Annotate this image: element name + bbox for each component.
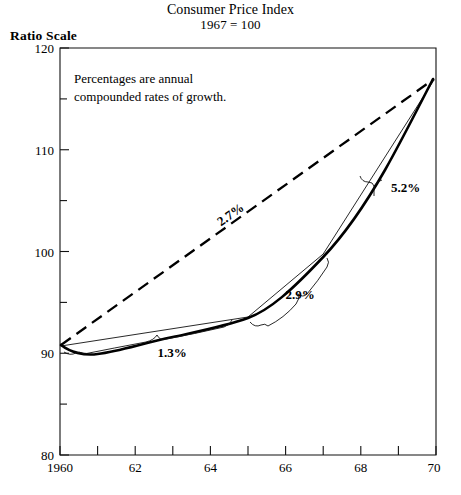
y-tick-label-90: 90 — [41, 346, 54, 361]
x-tick-label-1960: 1960 — [47, 460, 73, 475]
plot-frame — [60, 48, 436, 455]
plot-area: 120 110 100 90 80 1960 62 64 66 68 — [0, 0, 461, 495]
trend-line-overall-dashed — [61, 79, 434, 345]
y-tick-label-100: 100 — [35, 245, 55, 260]
annotation-label-2-9: 2.9% — [285, 287, 314, 302]
y-axis-major-ticks — [60, 48, 69, 455]
x-tick-label-68: 68 — [354, 460, 367, 475]
x-axis-ticks — [60, 446, 436, 455]
x-tick-label-64: 64 — [204, 460, 218, 475]
x-axis-labels: 1960 62 64 66 68 70 — [47, 460, 441, 475]
x-tick-label-62: 62 — [129, 460, 142, 475]
annotation-label-2-7: 2.7% — [214, 200, 247, 229]
y-tick-label-110: 110 — [35, 143, 54, 158]
x-tick-label-66: 66 — [279, 460, 293, 475]
x-tick-label-70: 70 — [428, 460, 441, 475]
annotation-brace-1-3 — [64, 320, 232, 354]
annotation-label-1-3: 1.3% — [157, 345, 186, 360]
annotation-label-5-2: 5.2% — [391, 180, 420, 195]
y-tick-label-120: 120 — [35, 41, 55, 56]
y-axis-labels: 120 110 100 90 80 — [35, 41, 55, 463]
cpi-chart-figure: Consumer Price Index 1967 = 100 Ratio Sc… — [0, 0, 461, 495]
